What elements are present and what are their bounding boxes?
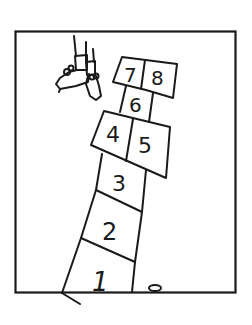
sneakers-icon: [56, 36, 101, 100]
square-label-7: 7: [124, 63, 137, 87]
square-label-2: 2: [102, 218, 117, 246]
square-label-6: 6: [129, 93, 142, 117]
square-label-3: 3: [112, 171, 126, 196]
square-label-4: 4: [106, 122, 120, 147]
square-label-8: 8: [151, 66, 164, 90]
square-label-1: 1: [92, 267, 109, 297]
square-label-5: 5: [138, 133, 152, 158]
stone-icon: [149, 285, 161, 291]
hopscotch-illustration: 7 8 6 4 5 3 2 1: [0, 0, 252, 325]
